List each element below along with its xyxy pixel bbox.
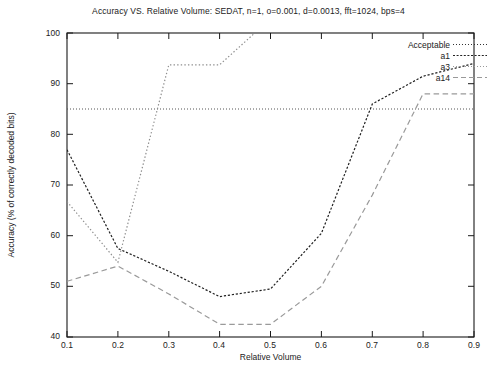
legend-label-a1: a1 [441, 51, 450, 61]
legend-item-a14: a14 [383, 72, 487, 83]
legend-item-a3: a3 [383, 61, 487, 72]
legend-label-a3: a3 [441, 62, 450, 72]
legend-label-a14: a14 [436, 73, 450, 83]
series-line-a3 [67, 19, 271, 262]
legend-item-a1: a1 [383, 50, 487, 61]
chart-figure: Accuracy VS. Relative Volume: SEDAT, n=1… [0, 0, 497, 380]
legend-swatch-a14 [453, 73, 487, 82]
legend-swatch-acceptable [453, 40, 487, 49]
legend-label-acceptable: Acceptable [408, 40, 450, 50]
legend-swatch-a3 [453, 62, 487, 71]
legend-swatch-a1 [453, 51, 487, 60]
chart-legend: Acceptable a1 a3 a14 [383, 39, 487, 83]
series-line-a14 [67, 94, 474, 324]
series-line-a1 [67, 64, 474, 297]
legend-item-acceptable: Acceptable [383, 39, 487, 50]
